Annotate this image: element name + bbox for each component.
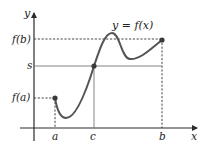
x-tick-c: c	[90, 130, 96, 142]
y-tick-s: s	[27, 59, 33, 71]
y-tick-fb: f(b)	[11, 33, 31, 45]
y-axis-label: y	[23, 7, 31, 20]
curve-label: y = f(x)	[111, 19, 153, 32]
ivt-diagram: y x y = f(x) f(b) s f(a) a c b	[0, 0, 211, 146]
point-b-fb	[159, 37, 164, 42]
point-a-fa	[52, 95, 57, 100]
x-axis-label: x	[191, 130, 198, 143]
x-tick-a: a	[52, 130, 58, 142]
function-curve	[55, 33, 162, 118]
y-tick-fa: f(a)	[11, 91, 30, 103]
x-tick-b: b	[159, 130, 166, 142]
point-c-s	[91, 63, 96, 68]
